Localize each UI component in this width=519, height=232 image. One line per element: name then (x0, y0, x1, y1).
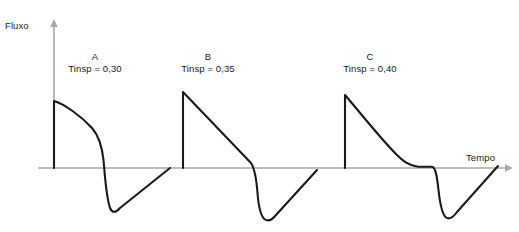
flow-time-chart (0, 0, 519, 232)
x-axis-arrow-icon (505, 164, 513, 171)
annotation-b: B Tinsp = 0,35 (153, 51, 263, 74)
flow-curve-a (54, 101, 170, 212)
annotation-a-value: Tinsp = 0,30 (40, 63, 150, 75)
x-axis-label: Tempo (466, 152, 495, 163)
y-axis-label: Fluxo (5, 20, 29, 31)
annotation-b-letter: B (153, 51, 263, 63)
annotation-a: A Tinsp = 0,30 (40, 51, 150, 74)
annotation-c-letter: C (315, 51, 425, 63)
x-axis (38, 164, 513, 171)
annotation-c: C Tinsp = 0,40 (315, 51, 425, 74)
annotation-b-value: Tinsp = 0,35 (153, 63, 263, 75)
flow-waveform-figure: Fluxo Tempo A Tinsp = 0,30 B Tinsp = 0,3… (0, 0, 519, 232)
annotation-a-letter: A (40, 51, 150, 63)
y-axis-arrow-icon (50, 19, 57, 27)
flow-curve-b (183, 92, 317, 220)
annotation-c-value: Tinsp = 0,40 (315, 63, 425, 75)
